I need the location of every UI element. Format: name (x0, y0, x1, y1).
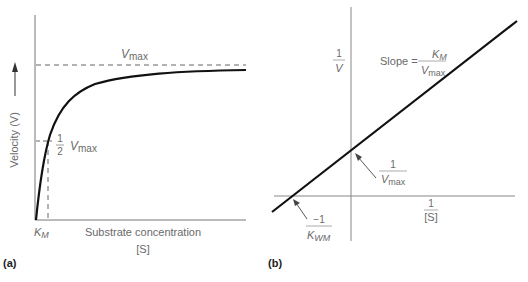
figure: Velocity (V) Vmax 1 2 Vmax KM Substrate … (0, 0, 528, 282)
half-vmax-label: 1 2 Vmax (56, 133, 97, 157)
xint-arrow-icon (293, 199, 300, 206)
x-axis-sublabel-a: [S] (136, 243, 149, 255)
svg-text:Vmax: Vmax (70, 139, 97, 154)
vmax-label: Vmax (121, 47, 148, 62)
panel-label-b: (b) (268, 257, 282, 269)
svg-text:KWM: KWM (307, 229, 331, 243)
yint-arrow-line (358, 157, 376, 178)
svg-text:Vmax: Vmax (381, 173, 406, 187)
up-arrow-icon (12, 62, 18, 72)
xint-arrow-line (296, 203, 307, 219)
svg-text:1: 1 (428, 198, 434, 209)
slope-label: Slope = KM Vmax (380, 48, 447, 78)
panel-label-a: (a) (3, 257, 17, 269)
svg-text:KM: KM (432, 48, 447, 62)
km-label: KM (34, 226, 49, 240)
svg-text:2: 2 (57, 146, 63, 157)
svg-text:Vmax: Vmax (421, 64, 446, 78)
svg-text:1: 1 (57, 133, 63, 144)
michaelis-menten-curve (36, 70, 246, 220)
svg-text:−1: −1 (313, 214, 325, 225)
svg-text:1: 1 (390, 159, 396, 170)
y-axis-label-a: Velocity (V) (8, 112, 20, 168)
svg-text:1: 1 (336, 48, 342, 59)
svg-text:Slope =: Slope = (380, 55, 418, 67)
panel-a: Velocity (V) Vmax 1 2 Vmax KM Substrate … (3, 15, 246, 269)
svg-text:[S]: [S] (424, 211, 437, 223)
y-axis-label-b: 1 V (333, 48, 345, 74)
svg-text:V: V (335, 62, 344, 74)
yint-label: 1 Vmax (379, 159, 407, 187)
xint-label: −1 KWM (306, 214, 332, 243)
x-axis-label-a: Substrate concentration (85, 226, 201, 238)
panel-b: 1 V Slope = KM Vmax 1 Vmax −1 KWM (268, 7, 517, 269)
x-axis-label-b: 1 [S] (424, 198, 438, 223)
